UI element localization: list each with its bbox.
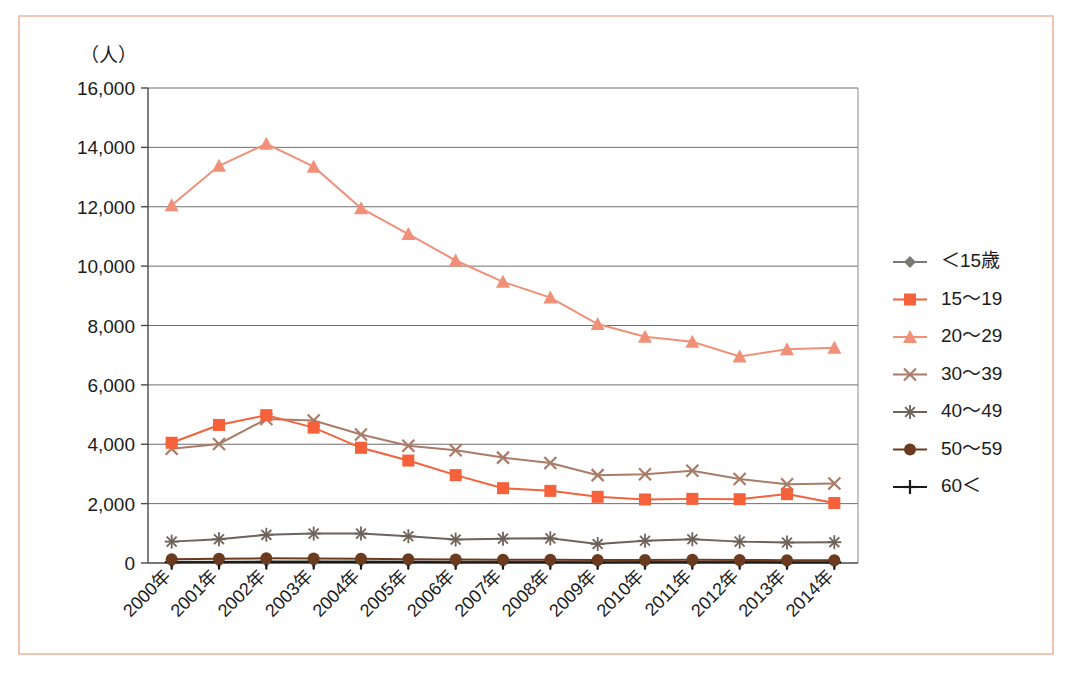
- marker-square: [592, 491, 604, 503]
- marker-circle: [450, 553, 462, 565]
- marker-asterisk: [165, 535, 179, 549]
- marker-circle: [308, 553, 320, 565]
- x-tick-label: 2005年: [356, 566, 411, 621]
- marker-circle: [355, 553, 367, 565]
- marker-asterisk: [401, 529, 415, 543]
- x-tick-label: 2004年: [309, 566, 364, 621]
- marker-asterisk: [591, 537, 605, 551]
- series-4: [165, 527, 842, 551]
- marker-square: [734, 493, 746, 505]
- legend-label: 15〜19: [941, 288, 1002, 309]
- marker-asterisk: [354, 527, 368, 541]
- legend-label: 30〜39: [941, 363, 1002, 384]
- x-tick-label: 2003年: [261, 566, 316, 621]
- x-tick-label: 2002年: [214, 566, 269, 621]
- legend-label: ＜15歳: [941, 250, 1000, 271]
- marker-circle: [639, 554, 651, 566]
- x-tick-label: 2008年: [498, 566, 553, 621]
- screenshot-root: （人）02,0004,0006,0008,00010,00012,00014,0…: [0, 0, 1074, 676]
- legend-label: 50〜59: [941, 438, 1002, 459]
- legend-item-3[interactable]: 30〜39: [893, 363, 1002, 384]
- marker-square: [686, 493, 698, 505]
- y-axis-unit-label: （人）: [80, 45, 137, 66]
- legend-item-0[interactable]: ＜15歳: [893, 250, 1000, 271]
- marker-circle: [686, 554, 698, 566]
- x-tick-label: 2013年: [735, 566, 790, 621]
- marker-triangle: [591, 317, 605, 330]
- legend-label: 40〜49: [941, 400, 1002, 421]
- marker-circle: [497, 554, 509, 566]
- marker-triangle: [543, 291, 557, 304]
- x-tick-label: 2001年: [167, 566, 222, 621]
- legend-item-4[interactable]: 40〜49: [893, 400, 1002, 421]
- marker-triangle: [212, 159, 226, 172]
- legend-item-5[interactable]: 50〜59: [893, 438, 1002, 459]
- series-3: [166, 413, 841, 490]
- marker-asterisk: [780, 536, 794, 550]
- marker-asterisk: [259, 528, 273, 542]
- marker-circle: [828, 554, 840, 566]
- marker-square: [497, 482, 509, 494]
- marker-circle: [781, 554, 793, 566]
- series-2: [165, 137, 842, 363]
- x-tick-label: 2009年: [545, 566, 600, 621]
- marker-square: [213, 419, 225, 431]
- series-5: [166, 552, 841, 566]
- marker-square: [904, 294, 916, 306]
- marker-circle: [166, 553, 178, 565]
- marker-circle: [402, 553, 414, 565]
- marker-triangle: [449, 253, 463, 266]
- marker-square: [308, 422, 320, 434]
- x-tick-label: 2007年: [451, 566, 506, 621]
- y-tick-label: 12,000: [77, 197, 135, 218]
- marker-asterisk: [827, 535, 841, 549]
- marker-circle: [904, 444, 916, 456]
- marker-square: [260, 409, 272, 421]
- marker-triangle: [259, 137, 273, 150]
- marker-triangle: [401, 227, 415, 240]
- marker-square: [355, 442, 367, 454]
- y-tick-label: 2,000: [87, 494, 135, 515]
- chart-svg: （人）02,0004,0006,0008,00010,00012,00014,0…: [0, 0, 1074, 676]
- y-tick-label: 14,000: [77, 137, 135, 158]
- marker-asterisk: [307, 527, 321, 541]
- y-tick-label: 16,000: [77, 78, 135, 99]
- marker-asterisk: [449, 533, 463, 547]
- marker-square: [544, 485, 556, 497]
- x-tick-label: 2014年: [782, 566, 837, 621]
- marker-triangle: [496, 275, 510, 288]
- marker-asterisk: [543, 531, 557, 545]
- y-tick-label: 8,000: [87, 316, 135, 337]
- marker-circle: [544, 554, 556, 566]
- y-tick-label: 0: [124, 553, 135, 574]
- marker-circle: [592, 554, 604, 566]
- legend-label: 60＜: [941, 475, 981, 496]
- y-tick-label: 10,000: [77, 256, 135, 277]
- marker-square: [166, 437, 178, 449]
- y-tick-label: 6,000: [87, 375, 135, 396]
- marker-circle: [213, 553, 225, 565]
- marker-asterisk: [685, 532, 699, 546]
- marker-diamond: [904, 256, 916, 268]
- marker-square: [639, 493, 651, 505]
- legend-item-2[interactable]: 20〜29: [893, 325, 1002, 346]
- x-tick-label: 2006年: [403, 566, 458, 621]
- series-line: [172, 144, 835, 357]
- marker-square: [402, 455, 414, 467]
- legend-item-6[interactable]: 60＜: [893, 475, 981, 496]
- x-tick-label: 2010年: [593, 566, 648, 621]
- y-tick-label: 4,000: [87, 434, 135, 455]
- marker-plus: [903, 480, 917, 494]
- marker-asterisk: [733, 535, 747, 549]
- marker-square: [828, 497, 840, 509]
- marker-asterisk: [496, 532, 510, 546]
- marker-asterisk: [903, 405, 917, 419]
- x-tick-label: 2012年: [687, 566, 742, 621]
- line-chart: （人）02,0004,0006,0008,00010,00012,00014,0…: [0, 0, 1074, 676]
- marker-circle: [734, 554, 746, 566]
- legend-item-1[interactable]: 15〜19: [893, 288, 1002, 309]
- marker-square: [781, 488, 793, 500]
- x-tick-label: 2011年: [641, 566, 695, 620]
- legend-label: 20〜29: [941, 325, 1002, 346]
- marker-triangle: [307, 160, 321, 173]
